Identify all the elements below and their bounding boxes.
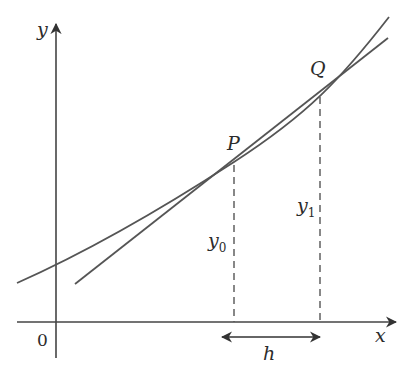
point-p-label: P	[226, 132, 241, 154]
interval-h-label: h	[263, 342, 275, 364]
curve	[17, 17, 389, 283]
y1-base: y	[296, 194, 308, 216]
origin-label: 0	[37, 330, 48, 350]
ordinate-y0-label: y0	[207, 229, 226, 255]
tangent-secant-diagram: y x 0 P Q y0 y1 h	[0, 0, 404, 370]
x-axis-label: x	[375, 324, 386, 346]
y0-subscript: 0	[219, 241, 227, 255]
point-q-label: Q	[310, 57, 326, 79]
ordinate-y1-label: y1	[296, 194, 315, 220]
y0-base: y	[207, 229, 219, 251]
y-axis-label: y	[36, 18, 48, 40]
y1-subscript: 1	[308, 206, 316, 220]
tangent-line	[75, 38, 388, 284]
